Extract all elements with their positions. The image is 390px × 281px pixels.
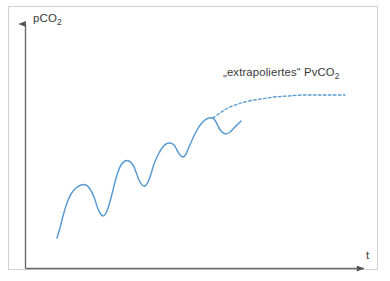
- extrapolated-pvco2-curve: [213, 95, 345, 118]
- y-axis-label-text: pCO: [33, 12, 57, 24]
- y-axis-label-subscript: 2: [57, 17, 62, 27]
- figure-container: pCO2 t „extrapoliertes“ PvCO2: [0, 0, 390, 281]
- x-axis-label: t: [366, 249, 369, 261]
- y-axis-label: pCO2: [33, 12, 62, 24]
- plot-svg: [0, 0, 390, 281]
- extrapolated-curve-annotation: „extrapoliertes“ PvCO2: [223, 66, 340, 78]
- annotation-text: „extrapoliertes“ PvCO: [223, 66, 335, 78]
- measured-pco2-curve: [57, 118, 241, 238]
- annotation-subscript: 2: [335, 71, 340, 81]
